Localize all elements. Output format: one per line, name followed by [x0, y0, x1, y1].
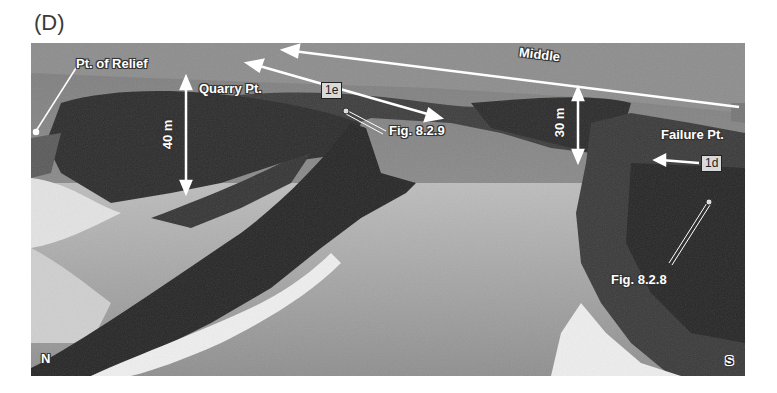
label-height-30m: 30 m [552, 108, 567, 138]
label-quarry-pt: Quarry Pt. [199, 81, 262, 96]
label-failure-pt: Failure Pt. [661, 127, 724, 142]
label-fig-829: Fig. 8.2.9 [389, 123, 445, 138]
cliff-photograph: Pt. of Relief Quarry Pt. Middle Failure … [31, 43, 745, 376]
label-fig-828: Fig. 8.2.8 [611, 272, 667, 287]
compass-south: S [725, 353, 734, 368]
label-pt-of-relief: Pt. of Relief [76, 56, 148, 71]
middle-arrow [293, 51, 739, 107]
label-box-1d: 1d [701, 155, 722, 172]
label-box-1e: 1e [321, 82, 342, 99]
middle-arrowhead [283, 45, 299, 57]
compass-north: N [41, 351, 50, 366]
quarry-arrow [256, 65, 431, 115]
label-height-40m: 40 m [160, 120, 175, 150]
annotation-arrows [31, 43, 745, 376]
panel-label: (D) [34, 10, 65, 36]
failure-arrow [661, 160, 699, 163]
